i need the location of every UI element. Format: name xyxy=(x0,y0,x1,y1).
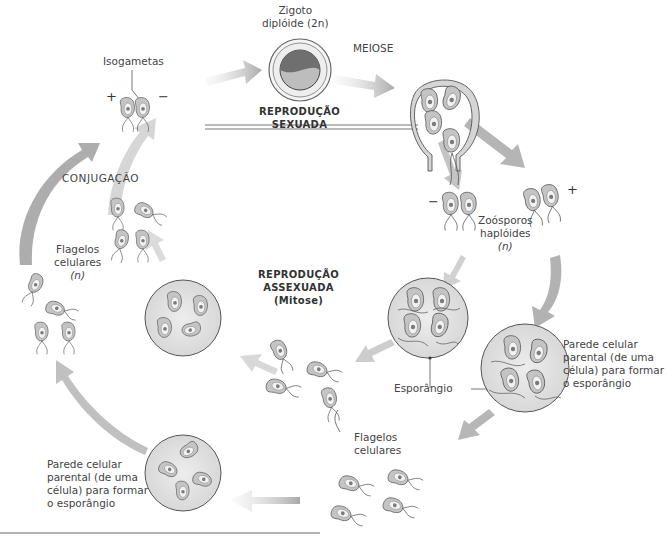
parent-wall-right-label: Parede celular parental (de uma célula) … xyxy=(563,338,664,390)
isogametes xyxy=(120,70,149,132)
parent-wall-bottom-label: Parede celular parental (de uma célula) … xyxy=(47,458,148,510)
flagellated-cells-far-left xyxy=(20,272,79,354)
zygote-label-line-2: diplóide (2n) xyxy=(262,17,329,30)
zoospores-label: Zoósporos haplóides (n) xyxy=(478,214,533,253)
parent-wall-bottom-line-4: o esporângio xyxy=(47,497,148,510)
arrow-meiosis xyxy=(334,74,395,98)
zoospores-line-3: (n) xyxy=(478,240,533,253)
flag-left-line-2: celulares xyxy=(54,256,101,269)
flag-left-line-3: (n) xyxy=(54,269,101,282)
sexual-title-line-1: REPRODUÇÃO xyxy=(259,105,340,118)
parent-wall-bottom-line-1: Parede celular xyxy=(47,458,148,471)
zoospores-minus xyxy=(442,192,476,230)
zygote-label: Zigoto diplóide (2n) xyxy=(262,4,329,30)
zoospores-line-1: Zoósporos xyxy=(478,214,533,227)
asexual-title-line-2: ASSEXUADA xyxy=(258,281,339,294)
arrow-to-flagellated-left xyxy=(146,230,166,262)
isogametes-label: Isogametas xyxy=(103,55,164,68)
meiosis-label: MEIOSE xyxy=(353,42,393,55)
zoospore-plus-sign: + xyxy=(567,182,578,197)
asexual-title-line-3: (Mitose) xyxy=(258,294,339,307)
flagellated-cells-left-label: Flagelos celulares (n) xyxy=(54,243,101,282)
parent-wall-right-line-2: parental (de uma xyxy=(563,351,664,364)
parent-wall-bottom-line-2: parental (de uma xyxy=(47,471,148,484)
flagellated-cells-bottom-label: Flagelos celulares xyxy=(354,431,401,457)
flag-bottom-line-1: Flagelos xyxy=(354,431,401,444)
zygote-label-line-1: Zigoto xyxy=(262,4,329,17)
zygote xyxy=(269,39,331,101)
arrow-to-flagellated-mid xyxy=(355,339,395,362)
arrow-to-sphere-bottom xyxy=(230,490,300,512)
asexual-reproduction-title: REPRODUÇÃO ASSEXUADA (Mitose) xyxy=(258,268,339,307)
flagellated-cells-mid xyxy=(265,338,343,423)
parent-wall-right-line-4: o esporângio xyxy=(563,377,664,390)
sporangium-right xyxy=(481,324,569,412)
sporangium-left xyxy=(388,278,468,360)
zoospores-line-2: haplóides xyxy=(478,227,533,240)
isogamete-plus-sign: + xyxy=(106,89,117,104)
sphere-bottom xyxy=(145,435,221,511)
arrow-to-sporangium-right xyxy=(532,255,561,328)
arrow-bottom-to-left xyxy=(56,360,148,455)
flag-left-line-1: Flagelos xyxy=(54,243,101,256)
flagellated-cells-bottom xyxy=(330,410,424,528)
sexual-title-line-2: SEXUADA xyxy=(259,118,340,131)
arrow-to-zygote xyxy=(205,60,262,86)
sphere-mitosis xyxy=(145,280,221,356)
flag-bottom-line-2: celulares xyxy=(354,444,401,457)
arrow-to-sphere-mid xyxy=(240,354,278,375)
conjugation-label: CONJUGAÇÃO xyxy=(62,172,139,185)
parent-wall-right-line-1: Parede celular xyxy=(563,338,664,351)
isogamete-minus-sign: − xyxy=(158,89,169,104)
meiosis-sporangium xyxy=(410,80,479,185)
arrow-to-flagellated-bottom xyxy=(458,409,495,440)
parent-wall-bottom-line-3: célula) para formar xyxy=(47,484,148,497)
parent-wall-right-line-3: célula) para formar xyxy=(563,364,664,377)
zoospore-minus-sign: − xyxy=(428,194,439,209)
sexual-reproduction-title: REPRODUÇÃO SEXUADA xyxy=(259,105,340,131)
asexual-title-line-1: REPRODUÇÃO xyxy=(258,268,339,281)
sporangium-label: Esporângio xyxy=(394,382,453,395)
